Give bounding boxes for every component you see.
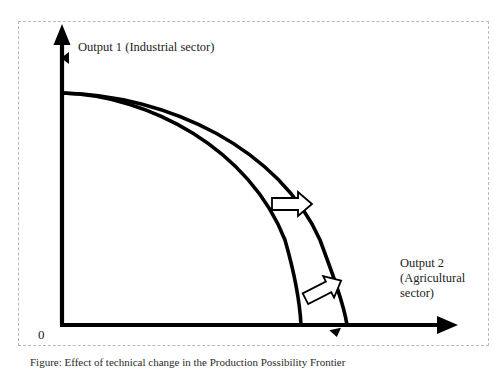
x-axis-arrowhead <box>437 316 458 334</box>
y-axis-label: Output 1 (Industrial sector) <box>78 40 218 55</box>
x-axis-label: Output 2 (Agricultural sector) <box>400 256 494 301</box>
figure-root: Output 1 (Industrial sector) Output 2 (A… <box>0 0 494 368</box>
y-axis-arrowhead <box>54 24 71 45</box>
inner-ppf-curve <box>62 93 301 325</box>
x-axis-tick-marker <box>329 328 342 338</box>
figure-caption: Figure: Effect of technical change in th… <box>30 356 480 368</box>
origin-label: 0 <box>38 327 45 343</box>
ppf-plot <box>0 0 494 368</box>
